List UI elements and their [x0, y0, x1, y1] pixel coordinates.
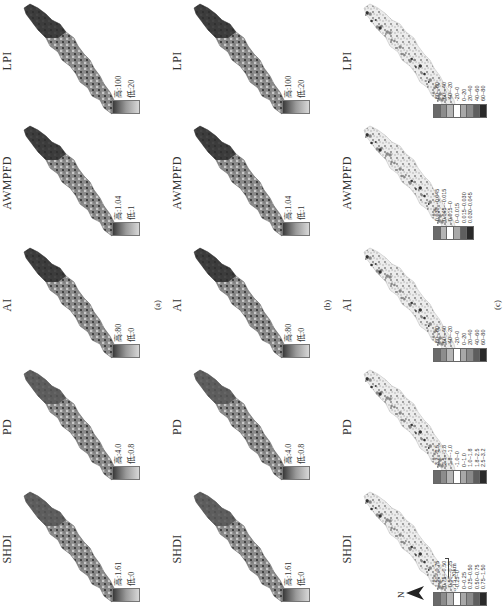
panel-a: SHDI 高:1.61 低:0PD 高:4.0 低:0.8AI 高:80 低:0…: [0, 0, 164, 610]
map-title: PD: [340, 366, 355, 488]
map-title: AWMPFD: [0, 122, 15, 244]
legend-high: 高:4.0: [112, 444, 123, 464]
class-label: -0.030~-0.045: [434, 189, 440, 223]
legend-gradient: [112, 344, 140, 358]
map-ai: AI 高:80 低:0: [170, 244, 320, 366]
map-shdi: SHDI 高:1.61 低:0: [0, 488, 150, 610]
map-image: [188, 2, 288, 118]
legend-gradient: [282, 344, 310, 358]
class-label: 40~60: [474, 330, 480, 345]
class-label: 0.50~0.75: [474, 564, 480, 589]
class-label: -2.5~-1.8: [441, 445, 447, 467]
legend-low: 低:1: [125, 206, 136, 220]
class-label: -20~0: [454, 87, 460, 101]
map-title: SHDI: [170, 488, 185, 610]
class-item: 0.75~1.50: [480, 561, 487, 606]
legend-low: 低:20: [295, 80, 306, 98]
panel-b: SHDI 高:1.61 低:0PD 高:4.0 低:0.8AI 高:80 低:0…: [170, 0, 334, 610]
class-label: 1.0~1.8: [467, 448, 473, 467]
legend-gradient: [282, 466, 310, 480]
legend-low: 低:0.8: [295, 444, 306, 464]
map-shdi: SHDI -1.50~-0.75 -0.75~-0.50 -0.50~-0.25…: [340, 488, 490, 610]
map-title: AWMPFD: [340, 122, 355, 244]
class-swatch: [479, 348, 487, 362]
class-legend: -80~-60 -60~-40 -40~-20 -20~0 0~20 20~40…: [434, 326, 487, 362]
map-ai: AI -80~-60 -60~-40 -40~-20 -20~0 0~20 20…: [340, 244, 490, 366]
legend-high: 高:80: [282, 324, 293, 342]
class-item: 2.5~3.2: [480, 445, 487, 484]
class-label: -0.25~0: [454, 570, 460, 589]
map-title: AI: [170, 244, 185, 366]
class-label: -0.75~-0.50: [441, 561, 447, 589]
panel-label: (a): [152, 0, 162, 610]
map-lpi: LPI 高:100 低:20: [0, 0, 150, 122]
map-pd: PD 高:4.0 低:0.8: [170, 366, 320, 488]
panel-c: SHDI -1.50~-0.75 -0.75~-0.50 -0.50~-0.25…: [340, 0, 504, 610]
map-lpi: LPI 高:100 低:20: [170, 0, 320, 122]
class-label: -0.015~0: [447, 201, 453, 223]
class-label: 20~40: [467, 86, 473, 101]
map-title: LPI: [170, 0, 185, 122]
legend-high: 高:1.61: [282, 562, 293, 586]
map-image: [18, 490, 118, 606]
map-image: [188, 246, 288, 362]
class-label: -3.2~-2.5: [434, 445, 440, 467]
map-image: [188, 124, 288, 240]
legend-gradient: [282, 222, 310, 236]
class-item: 60~80: [480, 326, 487, 362]
legend-low: 低:0: [295, 572, 306, 586]
map-image: [188, 368, 288, 484]
map-title: PD: [170, 366, 185, 488]
class-item: 60~80: [480, 82, 487, 118]
map-title: AWMPFD: [170, 122, 185, 244]
class-legend: -3.2~-2.5 -2.5~-1.8 -1.8~-1.0 -1.0~0 0~1…: [434, 445, 487, 484]
legend-low: 低:1: [295, 206, 306, 220]
legend-high: 高:100: [112, 76, 123, 98]
class-label: -60~-40: [441, 82, 447, 101]
class-label: 0.030~0.045: [467, 192, 473, 223]
class-swatch: [466, 226, 474, 240]
map-image: [18, 246, 118, 362]
map-title: AI: [340, 244, 355, 366]
class-legend: -80~-60 -60~-40 -40~-20 -20~0 0~20 20~40…: [434, 82, 487, 118]
class-label: 60~80: [480, 86, 486, 101]
class-label: -80~-60: [434, 82, 440, 101]
class-legend: -0.030~-0.045 -0.045~-0.015 -0.015~0 0~0…: [434, 189, 474, 240]
legend-high: 高:100: [282, 76, 293, 98]
class-label: 0~0.25: [461, 572, 467, 589]
map-image: [18, 368, 118, 484]
class-label: -1.50~-0.75: [434, 561, 440, 589]
class-label: 2.5~3.2: [480, 448, 486, 467]
map-title: LPI: [340, 0, 355, 122]
class-label: 20~40: [467, 330, 473, 345]
legend-gradient: [112, 100, 140, 114]
class-label: -0.50~-0.25: [447, 561, 453, 589]
class-label: -0.045~-0.015: [441, 189, 447, 223]
map-lpi: LPI -80~-60 -60~-40 -40~-20 -20~0 0~20 2…: [340, 0, 490, 122]
class-label: -1.0~0: [454, 451, 460, 467]
class-item: 0.030~0.045: [467, 189, 474, 240]
legend-gradient: [112, 466, 140, 480]
legend-low: 低:20: [125, 80, 136, 98]
class-label: 1.8~2.5: [474, 448, 480, 467]
panel-label: (c): [492, 0, 502, 610]
legend-gradient: [282, 588, 310, 602]
class-legend: -1.50~-0.75 -0.75~-0.50 -0.50~-0.25 -0.2…: [434, 561, 487, 606]
map-title: SHDI: [0, 488, 15, 610]
class-label: -40~-20: [447, 82, 453, 101]
legend-low: 低:0: [125, 572, 136, 586]
map-ai: AI 高:80 低:0: [0, 244, 150, 366]
class-label: -20~0: [454, 331, 460, 345]
map-image: [18, 124, 118, 240]
class-label: 0~20: [461, 89, 467, 101]
map-image: [188, 490, 288, 606]
class-label: -60~-40: [441, 326, 447, 345]
map-awmpfd: AWMPFD 高:1.04 低:1: [170, 122, 320, 244]
class-label: -1.8~-1.0: [447, 445, 453, 467]
map-awmpfd: AWMPFD 高:1.04 低:1: [0, 122, 150, 244]
class-label: -80~-60: [434, 326, 440, 345]
legend-high: 高:80: [112, 324, 123, 342]
class-label: 0.015~0.030: [461, 192, 467, 223]
class-label: 40~60: [474, 86, 480, 101]
